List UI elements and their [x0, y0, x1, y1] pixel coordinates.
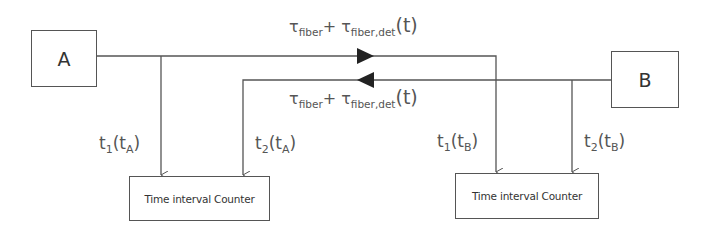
time-interval-counter-b: Time interval Counter [455, 173, 599, 219]
forward-delay-label: τfiber+ τfiber,det(t) [289, 16, 418, 38]
timestamp-t1-b: t1(tB) [437, 133, 478, 153]
timestamp-t2-a: t2(tA) [255, 135, 296, 155]
counter-b-label: Time interval Counter [472, 190, 582, 202]
counter-a-label: Time interval Counter [144, 193, 254, 205]
node-a-label: A [58, 48, 71, 70]
backward-arrow-icon [357, 72, 374, 88]
timestamp-t1-a: t1(tA) [99, 135, 140, 155]
timestamp-t2-b: t2(tB) [584, 133, 625, 153]
node-b: B [611, 51, 679, 108]
backward-delay-label: τfiber+ τfiber,det(t) [289, 88, 418, 110]
forward-arrow-icon [357, 48, 374, 64]
time-interval-counter-a: Time interval Counter [129, 176, 270, 221]
node-a: A [31, 30, 97, 87]
node-b-label: B [638, 69, 651, 91]
